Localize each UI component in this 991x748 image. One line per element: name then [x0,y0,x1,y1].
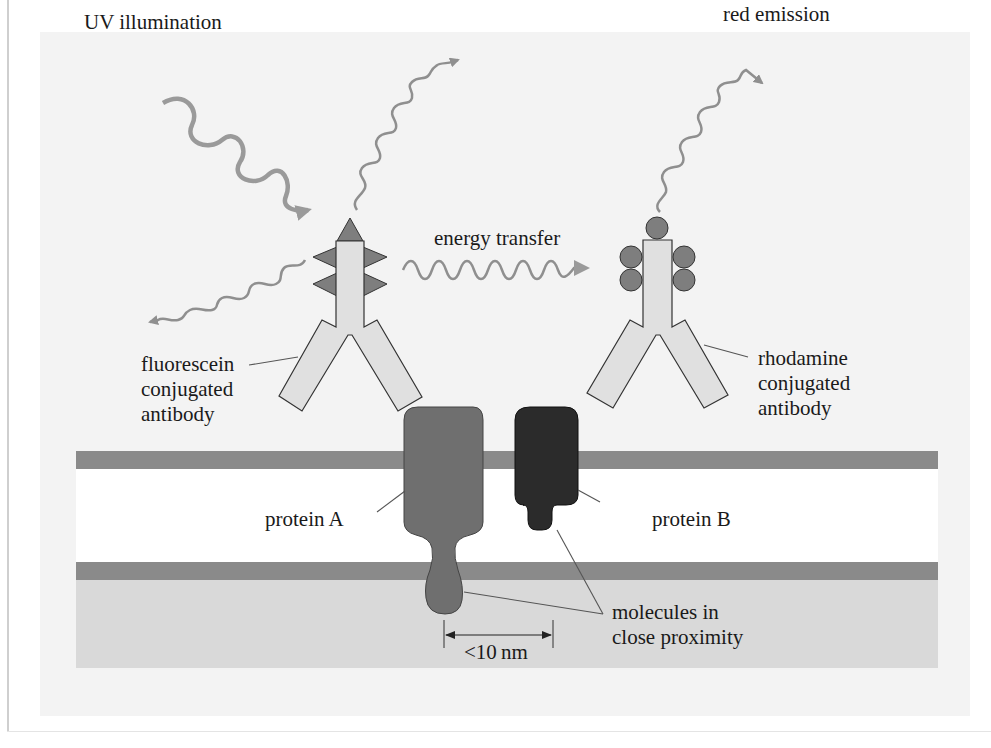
red-emission-wave-icon [657,70,762,212]
label-fluorescein-line-3: antibody [141,402,215,427]
fluorescein-fluorophore-icon [313,247,337,268]
leader-fluorescein [249,357,298,365]
label-protein-b: protein B [652,507,731,532]
fluorescein-conjugated-antibody [279,218,422,411]
label-energy-transfer: energy transfer [434,226,560,251]
label-uv-illumination: UV illumination [84,10,222,35]
uv-illumination-wave-icon [163,99,308,211]
fluorescein-fluorophore-icon [363,247,387,268]
label-red-emission: red emission [723,2,830,27]
leader-rhodamine [704,345,748,357]
membrane-outer-band [76,451,938,469]
label-distance: <10 nm [464,640,528,665]
rhodamine-conjugated-antibody [587,217,728,408]
rhodamine-fluorophore-icon [673,246,695,268]
antibody-shape [587,240,728,408]
fluorescein-emission-wave-left-icon [150,260,305,322]
membrane-interior [76,469,938,562]
fluorescein-fluorophore-icon [363,273,387,296]
rhodamine-fluorophore-icon [673,269,695,291]
fluorescein-fluorophore-icon [337,218,363,241]
label-molecules-line-1: molecules in [612,600,719,625]
antibody-shape [279,241,422,411]
label-protein-a: protein A [265,507,344,532]
rhodamine-fluorophore-icon [620,269,642,291]
energy-transfer-wave-icon [403,261,586,279]
membrane-inner-band [76,562,938,580]
label-rhodamine-line-1: rhodamine [758,346,848,371]
label-rhodamine-line-3: antibody [758,396,832,421]
rhodamine-fluorophore-icon [620,246,642,268]
fluorescein-fluorophore-icon [313,273,337,296]
rhodamine-fluorophore-icon [646,217,668,239]
label-fluorescein-line-2: conjugated [141,377,233,402]
label-rhodamine-line-2: conjugated [758,371,850,396]
fluorescein-emission-wave-up-icon [355,60,458,210]
label-fluorescein-line-1: fluorescein [141,352,234,377]
label-molecules-line-2: close proximity [612,625,743,650]
